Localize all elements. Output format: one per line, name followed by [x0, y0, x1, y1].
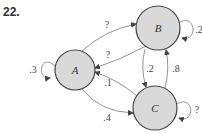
edge-C-B: [165, 50, 168, 88]
edge-label-C-A: .1: [104, 77, 112, 88]
edge-label-A-C: .4: [103, 112, 111, 123]
edge-label-B-C: .2: [146, 63, 154, 74]
node-B-label: B: [155, 22, 162, 34]
edge-C-A: [95, 72, 137, 96]
edge-B-A: [95, 46, 146, 68]
edge-label-B-A: ?: [106, 49, 111, 60]
edge-label-A-A: .3: [29, 64, 37, 75]
edge-label-C-B: .8: [172, 63, 180, 74]
edge-C-C: [177, 102, 191, 119]
node-C-label: C: [151, 102, 159, 114]
edge-label-A-B: ?: [105, 19, 110, 30]
edge-B-B: [180, 21, 193, 39]
edge-label-C-C: ?: [195, 104, 200, 115]
edge-A-C: [82, 89, 133, 113]
node-A-label: A: [71, 64, 79, 76]
edge-label-B-B: .2: [195, 24, 202, 35]
markov-chain-diagram: A B C .3 ? ? .1 .4 .2 .2 .8 ?: [0, 0, 202, 134]
edge-A-A: [41, 62, 55, 78]
